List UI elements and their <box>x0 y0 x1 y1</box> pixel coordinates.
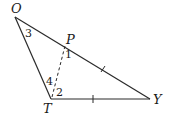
point-label-P: P <box>66 33 75 46</box>
angle-label-3: 3 <box>25 28 32 39</box>
angle-label-1: 1 <box>65 49 72 60</box>
point-label-Y: Y <box>153 93 162 106</box>
point-label-O: O <box>11 2 22 15</box>
angle-label-2: 2 <box>56 87 63 98</box>
angle-label-4: 4 <box>46 76 53 87</box>
geometry-diagram: O P T Y 1 2 3 4 <box>0 0 175 125</box>
point-label-T: T <box>43 102 52 115</box>
segment-OY <box>15 17 150 99</box>
triangle-figure <box>0 0 175 125</box>
